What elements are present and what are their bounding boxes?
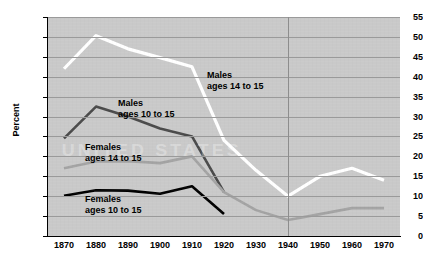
y-tick-mark — [43, 236, 47, 237]
y-tick-label: 15 — [383, 172, 423, 181]
y-tick-label: 20 — [383, 152, 423, 161]
series-label-line2: ages 10 to 15 — [118, 109, 175, 120]
gridline — [48, 57, 400, 58]
y-tick-label: 10 — [383, 192, 423, 201]
y-tick-mark — [43, 156, 47, 157]
gridline — [48, 97, 400, 98]
y-axis-line — [47, 17, 48, 237]
series-label-females-10-to-15: Females ages 10 to 15 — [85, 194, 142, 216]
y-tick-mark — [43, 176, 47, 177]
series-label-line2: ages 14 to 15 — [207, 81, 264, 92]
series-label-line1: Males — [118, 98, 175, 109]
series-label-males-10-to-15: Males ages 10 to 15 — [118, 98, 175, 120]
y-tick-label: 25 — [383, 132, 423, 141]
y-tick-mark — [43, 196, 47, 197]
series-label-females-14-to-15: Females ages 14 to 15 — [85, 142, 142, 164]
y-tick-label: 55 — [383, 13, 423, 22]
series-label-line1: Females — [85, 142, 142, 153]
gridline — [48, 216, 400, 217]
series-label-line2: ages 14 to 15 — [85, 153, 142, 164]
x-axis-line — [47, 236, 401, 237]
series-label-line1: Females — [85, 194, 142, 205]
gridline — [48, 17, 400, 18]
y-tick-mark — [43, 57, 47, 58]
y-tick-label: 5 — [383, 212, 423, 221]
gridline-vertical-1940 — [288, 17, 289, 236]
y-tick-label: 35 — [383, 93, 423, 102]
y-tick-mark — [43, 17, 47, 18]
y-tick-label: 50 — [383, 33, 423, 42]
y-tick-mark — [43, 37, 47, 38]
y-axis-title: Percent — [11, 90, 21, 150]
gridline — [48, 176, 400, 177]
y-tick-label: 40 — [383, 73, 423, 82]
series-label-line1: Males — [207, 70, 264, 81]
gridline — [48, 37, 400, 38]
y-tick-mark — [43, 77, 47, 78]
series-label-line2: ages 10 to 15 — [85, 205, 142, 216]
y-tick-mark — [43, 117, 47, 118]
y-tick-mark — [43, 97, 47, 98]
gridline — [48, 136, 400, 137]
y-tick-label: 45 — [383, 53, 423, 62]
series-label-males-14-to-15: Males ages 14 to 15 — [207, 70, 264, 92]
chart-container: UNITED STATES 0510152025303540455055 187… — [0, 0, 423, 271]
y-tick-mark — [43, 216, 47, 217]
series-line-males-ages-14-to-15 — [64, 36, 384, 196]
y-tick-mark — [43, 136, 47, 137]
x-tick-label: 1970 — [364, 240, 404, 250]
gridline — [48, 117, 400, 118]
y-tick-label: 30 — [383, 113, 423, 122]
